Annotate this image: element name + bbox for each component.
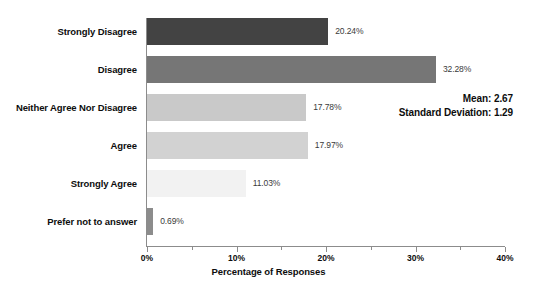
x-axis-minor-tick: [192, 247, 193, 250]
bar: [147, 56, 436, 83]
bar: [147, 94, 306, 121]
category-label: Strongly Agree: [0, 179, 137, 189]
x-axis-major-tick: [505, 247, 506, 252]
bar: [147, 208, 153, 235]
bar-chart: Strongly DisagreeDisagreeNeither Agree N…: [0, 0, 537, 291]
x-axis-major-tick: [416, 247, 417, 252]
bar: [147, 18, 328, 45]
statistics-annotation: Mean: 2.67 Standard Deviation: 1.29: [399, 92, 513, 120]
x-axis-major-tick: [147, 247, 148, 252]
bar-value-label: 17.97%: [315, 132, 343, 159]
bar-value-label: 0.69%: [160, 208, 184, 235]
bar: [147, 132, 308, 159]
x-axis-tick-label: 10%: [228, 253, 245, 263]
category-axis-labels: Strongly DisagreeDisagreeNeither Agree N…: [0, 0, 143, 291]
plot-area: 20.24%32.28%17.78%17.97%11.03%0.69%: [147, 18, 505, 246]
bar: [147, 170, 246, 197]
x-axis-minor-tick: [281, 247, 282, 250]
category-label: Agree: [0, 141, 137, 151]
x-axis-minor-tick: [460, 247, 461, 250]
x-axis-tick-label: 0%: [141, 253, 153, 263]
x-axis-major-tick: [237, 247, 238, 252]
category-label: Prefer not to answer: [0, 217, 137, 227]
x-axis-tick-label: 20%: [317, 253, 334, 263]
bar-value-label: 20.24%: [335, 18, 363, 45]
x-axis-title: Percentage of Responses: [0, 266, 537, 277]
x-axis-tick-label: 30%: [407, 253, 424, 263]
bar-value-label: 11.03%: [253, 170, 281, 197]
mean-value: Mean: 2.67: [399, 92, 513, 106]
category-label: Strongly Disagree: [0, 27, 137, 37]
x-axis-tick-label: 40%: [496, 253, 513, 263]
x-axis-major-tick: [326, 247, 327, 252]
bar-value-label: 32.28%: [443, 56, 471, 83]
category-label: Neither Agree Nor Disagree: [0, 103, 137, 113]
x-axis-minor-tick: [371, 247, 372, 250]
bar-value-label: 17.78%: [313, 94, 341, 121]
category-label: Disagree: [0, 65, 137, 75]
standard-deviation-value: Standard Deviation: 1.29: [399, 106, 513, 120]
